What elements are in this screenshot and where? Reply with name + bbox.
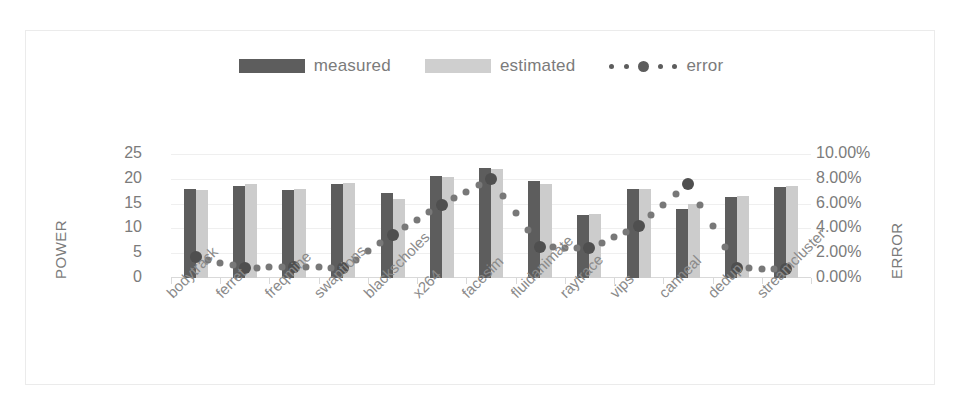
y-axis-left-tick-4: 20: [124, 170, 142, 186]
error-trend-dot: [426, 209, 433, 216]
error-trend-dot: [463, 188, 470, 195]
error-trend-dot: [315, 264, 322, 271]
error-trend-dot: [524, 226, 531, 233]
error-trend-dot: [758, 265, 765, 272]
error-data-point: [436, 199, 448, 211]
error-trend-dot: [266, 264, 273, 271]
bar-group: [220, 154, 269, 278]
error-trend-dot: [254, 264, 261, 271]
y-axis-right-tick-3: 6.00%: [816, 195, 861, 211]
y-axis-left-tick-1: 5: [133, 244, 142, 260]
y-axis-right-tick-5: 10.00%: [816, 145, 870, 161]
error-trend-dot: [475, 182, 482, 189]
y-axis-left-tick-5: 25: [124, 145, 142, 161]
error-trend-dot: [672, 191, 679, 198]
legend-label-measured: measured: [314, 56, 391, 76]
error-trend-dot: [414, 216, 421, 223]
error-trend-dot: [401, 224, 408, 231]
dotted-line-marker-icon: [609, 59, 677, 73]
chart-legend: measured estimated error: [26, 53, 936, 79]
bar-group: [417, 154, 466, 278]
error-trend-dot: [746, 265, 753, 272]
legend-item-estimated: estimated: [425, 56, 576, 76]
bar-swatch-light-icon: [425, 59, 491, 73]
x-axis-category-labels: bodytrackferretfreqmineswaptionsblacksch…: [26, 281, 936, 386]
legend-label-estimated: estimated: [500, 56, 576, 76]
error-trend-dot: [512, 209, 519, 216]
error-trend-dot: [648, 212, 655, 219]
error-data-point: [682, 178, 694, 190]
bar-estimated: [442, 177, 454, 278]
error-trend-dot: [500, 192, 507, 199]
bar-group: [713, 154, 762, 278]
error-data-point: [387, 229, 399, 241]
error-data-point: [485, 173, 497, 185]
error-trend-dot: [574, 244, 581, 251]
bar-estimated: [639, 189, 651, 278]
error-trend-dot: [598, 239, 605, 246]
y-axis-left-tick-2: 10: [124, 219, 142, 235]
legend-label-error: error: [686, 56, 723, 76]
y-axis-left-tick-3: 15: [124, 195, 142, 211]
error-trend-dot: [451, 195, 458, 202]
bar-measured: [430, 176, 442, 278]
error-data-point: [633, 220, 645, 232]
bar-swatch-dark-icon: [239, 59, 305, 73]
error-trend-dot: [697, 201, 704, 208]
error-trend-dot: [611, 234, 618, 241]
y-axis-right-tick-1: 2.00%: [816, 244, 861, 260]
chart-frame: measured estimated error POWER ERROR 051…: [25, 30, 935, 385]
error-trend-dot: [217, 259, 224, 266]
legend-item-measured: measured: [239, 56, 391, 76]
bar-group: [614, 154, 663, 278]
legend-item-error: error: [609, 56, 723, 76]
y-axis-left-title: POWER: [52, 149, 69, 279]
error-trend-dot: [377, 239, 384, 246]
error-trend-dot: [623, 228, 630, 235]
error-trend-dot: [709, 222, 716, 229]
y-axis-right-tick-4: 8.00%: [816, 170, 861, 186]
error-trend-dot: [721, 244, 728, 251]
error-trend-dot: [660, 201, 667, 208]
